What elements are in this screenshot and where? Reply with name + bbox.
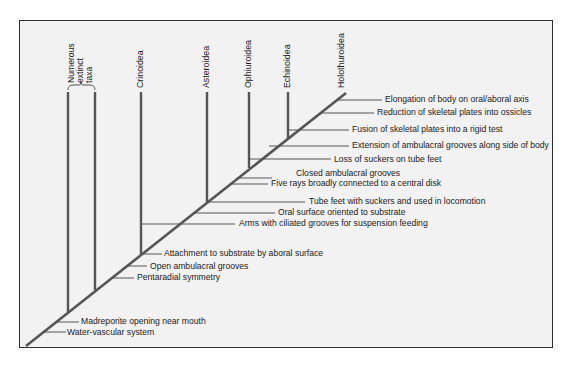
character-label: Open ambulacral grooves: [150, 262, 248, 271]
character-label: Attachment to substrate by aboral surfac…: [164, 249, 323, 258]
extinct-bracket: [68, 82, 95, 90]
taxon-label-echinoidea: Echinoidea: [283, 44, 292, 88]
character-label: Tube feet with suckers and used in locom…: [309, 197, 485, 206]
character-label: Extension of ambulacral grooves along si…: [352, 141, 549, 150]
character-label: Closed ambulacral grooves: [296, 169, 400, 178]
character-label: Arms with ciliated grooves for suspensio…: [239, 219, 428, 228]
character-label: Five rays broadly connected to a central…: [271, 179, 441, 188]
taxon-label-ophiuroidea: Ophiuroidea: [244, 40, 253, 88]
character-label: Oral surface oriented to substrate: [278, 208, 406, 217]
taxon-label-crinoidea: Crinoidea: [136, 50, 145, 88]
character-label: Elongation of body on oral/aboral axis: [385, 95, 529, 104]
character-label: Fusion of skeletal plates into a rigid t…: [352, 125, 502, 134]
character-label: Reduction of skeletal plates into ossicl…: [377, 108, 531, 117]
character-label: Madreporite opening near mouth: [81, 317, 206, 326]
character-label: Water-vascular system: [67, 328, 154, 337]
taxon-label-asteroidea: Asteroidea: [202, 46, 211, 88]
taxon-label-extinct: Numerous extinct taxa: [67, 43, 94, 83]
character-label: Pentaradial symmetry: [137, 273, 220, 282]
character-label: Loss of suckers on tube feet: [334, 155, 442, 164]
extinct-line-3: taxa: [85, 43, 94, 83]
taxon-label-holothuroidea: Holothuroidea: [337, 33, 346, 88]
